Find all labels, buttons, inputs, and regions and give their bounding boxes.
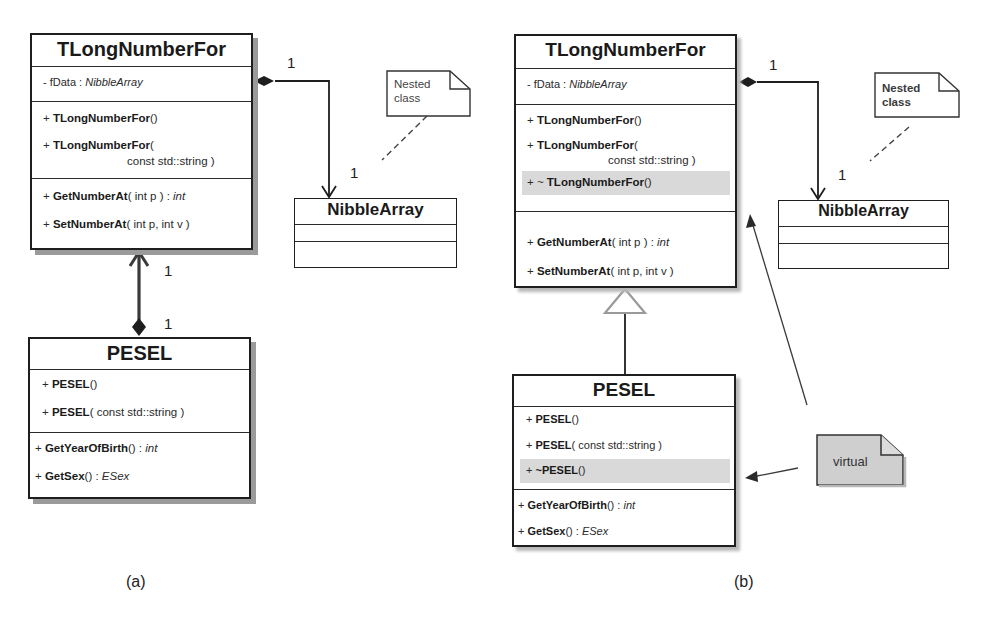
- title-divider: [514, 406, 734, 407]
- attribute-divider: [295, 241, 456, 242]
- class-pesel-a[interactable]: PESEL + PESEL() + PESEL( const std::stri…: [28, 337, 251, 499]
- method-ctor-default: + TLongNumberFor(): [43, 112, 158, 124]
- class-name: NibbleArray: [779, 202, 948, 220]
- method-ctor-default: + PESEL(): [526, 413, 579, 425]
- methods-divider: [516, 211, 735, 212]
- method-ctor-string: + PESEL( const std::string ): [42, 406, 184, 418]
- multiplicity-label: 1: [838, 166, 846, 183]
- composition-a: [275, 81, 336, 197]
- method-ctor-string: + TLongNumberFor(: [43, 139, 154, 151]
- method-getnumberat: + GetNumberAt( int p ) : int: [43, 190, 185, 202]
- aggregation-diamond-a: [132, 318, 146, 336]
- method-getsex: + GetSex() : ESex: [35, 470, 129, 482]
- multiplicity-label: 1: [769, 56, 777, 73]
- multiplicity-label: 1: [164, 315, 172, 332]
- note-line: class: [394, 91, 430, 105]
- caption-a: (a): [126, 573, 146, 591]
- class-nibblearray-a[interactable]: NibbleArray: [294, 198, 457, 268]
- class-tlongnumberfor-a[interactable]: TLongNumberFor - fData : NibbleArray + T…: [30, 33, 253, 250]
- method-destructor: + ~PESEL(): [526, 464, 585, 476]
- method-setnumberat: + SetNumberAt( int p, int v ): [527, 265, 674, 277]
- caption-b: (b): [734, 573, 754, 591]
- multiplicity-label: 1: [164, 262, 172, 279]
- class-name: TLongNumberFor: [32, 38, 251, 61]
- method-ctor-string: + TLongNumberFor(: [527, 139, 638, 151]
- note-anchor-a: [382, 116, 427, 160]
- method-getyearofbirth: + GetYearOfBirth() : int: [35, 442, 157, 454]
- class-name: PESEL: [514, 379, 734, 401]
- attribute-fdata: - fData : NibbleArray: [527, 78, 627, 90]
- attribute-divider: [32, 101, 251, 102]
- generalization-triangle-b: [605, 289, 645, 313]
- methods-divider: [32, 178, 251, 179]
- title-divider: [516, 68, 735, 69]
- note-anchor-b: [870, 127, 909, 161]
- title-divider: [295, 224, 456, 225]
- members-divider: [30, 432, 249, 433]
- members-divider: [514, 489, 734, 490]
- note-nested-class-a: Nested class: [394, 77, 430, 105]
- class-name: PESEL: [30, 342, 249, 365]
- method-getyearofbirth: + GetYearOfBirth() : int: [518, 499, 635, 511]
- method-ctor-string-cont: const std::string ): [608, 154, 696, 166]
- note-line: Nested: [882, 81, 920, 95]
- class-name: NibbleArray: [295, 200, 456, 220]
- class-nibblearray-b[interactable]: NibbleArray: [778, 200, 949, 269]
- attribute-divider: [516, 104, 735, 105]
- composition-b: [757, 82, 825, 199]
- method-ctor-default: + TLongNumberFor(): [527, 114, 642, 126]
- method-ctor-string-cont: const std::string ): [127, 155, 215, 167]
- composition-diamond-a: [254, 76, 274, 86]
- method-getsex: + GetSex() : ESex: [518, 525, 608, 537]
- association-a: [130, 252, 148, 320]
- multiplicity-label: 1: [287, 54, 295, 71]
- method-ctor-default: + PESEL(): [42, 378, 97, 390]
- class-pesel-b[interactable]: PESEL + PESEL() + PESEL( const std::stri…: [512, 374, 736, 547]
- note-line: Nested: [394, 77, 430, 91]
- title-divider: [32, 66, 251, 67]
- attribute-divider: [779, 243, 948, 244]
- note-virtual: virtual: [833, 455, 868, 469]
- note-line: class: [882, 95, 920, 109]
- composition-diamond-b: [739, 77, 757, 87]
- title-divider: [779, 226, 948, 227]
- method-ctor-string: + PESEL( const std::string ): [526, 439, 662, 451]
- class-tlongnumberfor-b[interactable]: TLongNumberFor - fData : NibbleArray + T…: [514, 34, 737, 288]
- multiplicity-label: 1: [350, 164, 358, 181]
- method-setnumberat: + SetNumberAt( int p, int v ): [43, 218, 190, 230]
- method-getnumberat: + GetNumberAt( int p ) : int: [527, 236, 669, 248]
- method-destructor: + ~ TLongNumberFor(): [527, 176, 652, 188]
- class-name: TLongNumberFor: [516, 39, 735, 61]
- note-nested-class-b: Nested class: [882, 81, 920, 109]
- attribute-fdata: - fData : NibbleArray: [43, 76, 143, 88]
- title-divider: [30, 369, 249, 370]
